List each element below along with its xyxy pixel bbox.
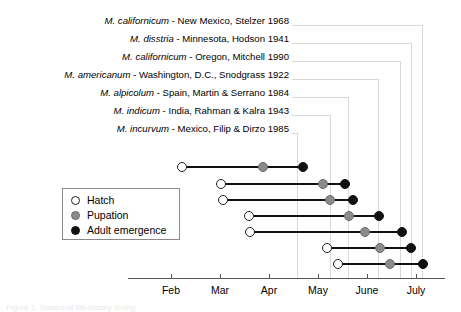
species-name: M. indicum <box>114 105 160 116</box>
pupation-marker <box>385 259 395 269</box>
axis-tick-label: July <box>386 284 446 296</box>
gray-circle-icon <box>71 211 80 220</box>
timeline-segment <box>182 166 303 168</box>
axis-line <box>128 278 445 279</box>
taxon-label: M. incurvum - Mexico, Filip & Dirzo 1985 <box>117 123 289 134</box>
bracket-horizontal <box>292 43 411 44</box>
axis-tick <box>318 274 319 278</box>
legend-item: Hatch <box>71 194 114 206</box>
bracket-vertical <box>422 25 423 278</box>
locality-citation: - India, Rahman & Kalra 1943 <box>160 105 289 116</box>
legend-item: Adult emergence <box>71 224 166 236</box>
figure-root: M. californicum - New Mexico, Stelzer 19… <box>0 0 461 312</box>
bracket-vertical <box>400 61 401 278</box>
species-name: M. californicum <box>105 15 170 26</box>
legend-label: Hatch <box>87 194 114 206</box>
timeline-segment <box>249 215 379 217</box>
axis-tick <box>269 274 270 278</box>
adult-emergence-marker <box>298 162 308 172</box>
bracket-vertical <box>297 133 298 278</box>
open-circle-icon <box>71 196 80 205</box>
pupation-marker <box>325 195 335 205</box>
species-name: M. incurvum <box>117 123 169 134</box>
bracket-horizontal <box>292 61 400 62</box>
axis-tick <box>171 274 172 278</box>
pupation-marker <box>344 211 354 221</box>
adult-emergence-marker <box>374 211 384 221</box>
pupation-marker <box>360 227 370 237</box>
hatch-marker <box>322 243 332 253</box>
legend-item: Pupation <box>71 209 128 221</box>
taxon-label: M. californicum - New Mexico, Stelzer 19… <box>105 15 289 26</box>
legend-label: Adult emergence <box>87 224 166 236</box>
pupation-marker <box>258 162 268 172</box>
bracket-horizontal <box>292 97 348 98</box>
legend-box: HatchPupationAdult emergence <box>62 188 180 240</box>
taxon-label: M. indicum - India, Rahman & Kalra 1943 <box>114 105 289 116</box>
pupation-marker <box>318 179 328 189</box>
filled-circle-icon <box>71 226 80 235</box>
timeline-segment <box>338 263 423 265</box>
adult-emergence-marker <box>348 195 358 205</box>
species-name: M. disstria <box>130 33 174 44</box>
hatch-marker <box>218 195 228 205</box>
hatch-marker <box>244 211 254 221</box>
locality-citation: - Mexico, Filip & Dirzo 1985 <box>169 123 289 134</box>
hatch-marker <box>333 259 343 269</box>
bracket-horizontal <box>292 79 378 80</box>
hatch-marker <box>245 227 255 237</box>
axis-tick <box>367 274 368 278</box>
adult-emergence-marker <box>418 259 428 269</box>
hatch-marker <box>216 179 226 189</box>
timeline-segment <box>250 231 402 233</box>
locality-citation: - Spain, Martin & Serrano 1984 <box>154 87 289 98</box>
locality-citation: - Minnesota, Hodson 1941 <box>174 33 289 44</box>
caption-fragment: Figure 1. Seasonal life-history timing <box>6 303 135 312</box>
bracket-horizontal <box>292 115 330 116</box>
taxon-label: M. alpicolum - Spain, Martin & Serrano 1… <box>100 87 289 98</box>
species-name: M. alpicolum <box>100 87 154 98</box>
taxon-label: M. disstria - Minnesota, Hodson 1941 <box>130 33 289 44</box>
adult-emergence-marker <box>340 179 350 189</box>
bracket-horizontal <box>292 25 422 26</box>
locality-citation: - New Mexico, Stelzer 1968 <box>169 15 289 26</box>
species-name: M. americanum <box>64 69 130 80</box>
timeline-segment <box>327 247 411 249</box>
legend-label: Pupation <box>87 209 128 221</box>
pupation-marker <box>375 243 385 253</box>
adult-emergence-marker <box>397 227 407 237</box>
taxon-label: M. americanum - Washington, D.C., Snodgr… <box>64 69 289 80</box>
taxon-label: M. californicum - Oregon, Mitchell 1990 <box>122 51 289 62</box>
species-name: M. californicum <box>122 51 187 62</box>
axis-tick <box>416 274 417 278</box>
locality-citation: - Oregon, Mitchell 1990 <box>187 51 289 62</box>
adult-emergence-marker <box>406 243 416 253</box>
axis-tick <box>220 274 221 278</box>
hatch-marker <box>177 162 187 172</box>
locality-citation: - Washington, D.C., Snodgrass 1922 <box>130 69 289 80</box>
